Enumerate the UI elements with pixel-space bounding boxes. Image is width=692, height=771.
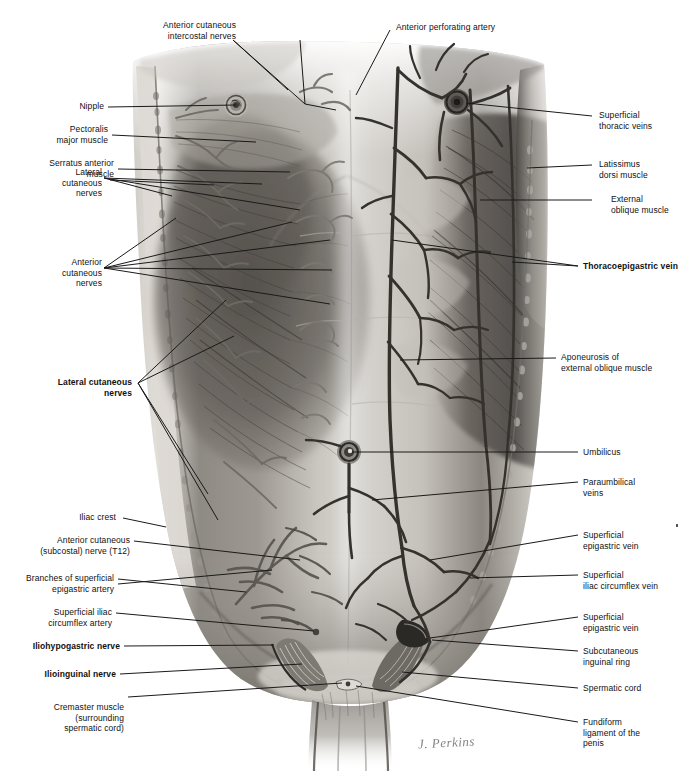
label-superficial-iliac-circumflex-artery: Superficial iliac circumflex artery — [26, 607, 112, 628]
figure-canvas: Anterior cutaneous intercostal nerves An… — [0, 0, 692, 771]
label-superficial-iliac-circumflex-vein: Superficial iliac circumflex vein — [583, 570, 689, 591]
label-anterior-cutaneous-intercostal-nerves: Anterior cutaneous intercostal nerves — [134, 20, 236, 41]
label-spermatic-cord: Spermatic cord — [583, 683, 677, 694]
label-lateral-cutaneous-nerves-upper: Lateral cutaneous nerves — [34, 167, 102, 199]
label-thoracoepigastric-vein: Thoracoepigastric vein — [583, 261, 692, 272]
label-superficial-epigastric-vein-lower: Superficial epigastric vein — [583, 612, 673, 633]
label-subcutaneous-inguinal-ring: Subcutaneous inguinal ring — [583, 646, 673, 667]
label-branches-of-superficial-epigastric-artery: Branches of superficial epigastric arter… — [8, 573, 114, 594]
label-anterior-cutaneous-subcostal-nerve-t12: Anterior cutaneous (subcostal) nerve (T1… — [10, 535, 130, 556]
label-cremaster-muscle: Cremaster muscle (surrounding spermatic … — [28, 702, 124, 734]
label-lateral-cutaneous-nerves-lower: Lateral cutaneous nerves — [14, 377, 132, 398]
label-iliac-crest: Iliac crest — [40, 512, 116, 523]
label-fundiform-ligament-of-the-penis: Fundiform ligament of the penis — [583, 717, 675, 749]
label-ilioinguinal-nerve: Ilioinguinal nerve — [20, 669, 116, 680]
label-superficial-epigastric-vein-upper: Superficial epigastric vein — [583, 530, 673, 551]
label-pectoralis-major-muscle: Pectoralis major muscle — [16, 124, 108, 145]
label-external-oblique-muscle: External oblique muscle — [611, 194, 692, 215]
label-umbilicus: Umbilicus — [583, 447, 669, 458]
label-anterior-perforating-artery: Anterior perforating artery — [396, 22, 556, 33]
label-superficial-thoracic-veins: Superficial thoracic veins — [599, 110, 691, 131]
scan-speck — [676, 524, 678, 527]
label-paraumbilical-veins: Paraumbilical veins — [583, 477, 669, 498]
label-latissimus-dorsi-muscle: Latissimus dorsi muscle — [599, 159, 691, 180]
label-iliohypogastric-nerve: Iliohypogastric nerve — [10, 641, 120, 652]
label-anterior-cutaneous-nerves: Anterior cutaneous nerves — [34, 257, 102, 289]
artist-signature: J. Perkins — [418, 734, 476, 753]
label-nipple: Nipple — [20, 101, 104, 112]
label-aponeurosis-of-external-oblique-muscle: Aponeurosis of external oblique muscle — [561, 352, 679, 373]
